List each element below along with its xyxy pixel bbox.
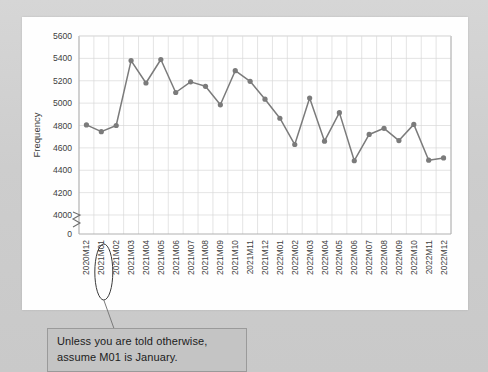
x-tick-label: 2022M10: [409, 240, 419, 275]
y-tick-label: 4000: [53, 210, 72, 220]
x-tick-label: 2022M04: [320, 240, 330, 275]
data-point: [292, 142, 297, 147]
data-point: [203, 84, 208, 89]
y-axis-title: Frequency: [31, 112, 42, 157]
data-point: [381, 126, 386, 131]
data-point: [173, 90, 178, 95]
x-tick-label: 2021M05: [156, 240, 166, 275]
y-tick-label: 0: [67, 229, 72, 239]
data-point: [114, 123, 119, 128]
x-tick-label: 2022M01: [275, 240, 285, 275]
data-point: [99, 129, 104, 134]
chart-panel: 0400042004400460048005000520054005600Fre…: [22, 17, 468, 310]
data-point: [277, 116, 282, 121]
x-tick-label: 2022M07: [364, 240, 374, 275]
data-point: [143, 80, 148, 85]
x-tick-label: 2020M12: [81, 240, 91, 275]
x-tick-label: 2022M02: [290, 240, 300, 275]
x-tick-label: 2022M05: [334, 240, 344, 275]
x-tick-label: 2022M12: [439, 240, 449, 275]
y-tick-label: 4600: [53, 143, 72, 153]
data-point: [188, 79, 193, 84]
x-tick-label: 2022M09: [394, 240, 404, 275]
data-point: [128, 58, 133, 63]
x-tick-label: 2022M03: [305, 240, 315, 275]
data-point: [396, 138, 401, 143]
x-tick-label: 2021M11: [245, 240, 255, 275]
data-point: [337, 110, 342, 115]
x-tick-label: 2022M06: [349, 240, 359, 275]
data-point: [248, 79, 253, 84]
y-tick-label: 5200: [53, 76, 72, 86]
y-tick-label: 4800: [53, 121, 72, 131]
data-point: [352, 158, 357, 163]
x-tick-label: 2021M03: [126, 240, 136, 275]
y-tick-label: 4200: [53, 188, 72, 198]
y-tick-label: 5600: [53, 31, 72, 41]
annotation-callout: Unless you are told otherwise, assume M0…: [47, 328, 247, 372]
data-point: [233, 68, 238, 73]
data-point: [441, 155, 446, 160]
y-tick-label: 5400: [53, 53, 72, 63]
data-point: [218, 102, 223, 107]
data-point: [426, 158, 431, 163]
data-point: [411, 122, 416, 127]
x-tick-label: 2021M02: [111, 240, 121, 275]
data-point: [262, 97, 267, 102]
annotation-line-2: assume M01 is January.: [57, 350, 237, 366]
frequency-line-chart: 0400042004400460048005000520054005600Fre…: [22, 17, 468, 310]
x-tick-label: 2022M11: [424, 240, 434, 275]
x-tick-label: 2021M04: [141, 240, 151, 275]
x-tick-label: 2021M09: [215, 240, 225, 275]
data-point: [367, 132, 372, 137]
x-tick-label: 2021M06: [171, 240, 181, 275]
x-tick-label: 2021M07: [186, 240, 196, 275]
data-point: [84, 122, 89, 127]
data-point: [307, 95, 312, 100]
y-tick-label: 4400: [53, 165, 72, 175]
x-tick-label: 2022M08: [379, 240, 389, 275]
x-tick-label: 2021M10: [230, 240, 240, 275]
data-point: [322, 139, 327, 144]
annotation-line-1: Unless you are told otherwise,: [57, 334, 237, 350]
data-point: [158, 57, 163, 62]
x-tick-label: 2021M08: [200, 240, 210, 275]
y-tick-label: 5000: [53, 98, 72, 108]
x-tick-label: 2021M01: [96, 240, 106, 275]
x-tick-label: 2021M12: [260, 240, 270, 275]
